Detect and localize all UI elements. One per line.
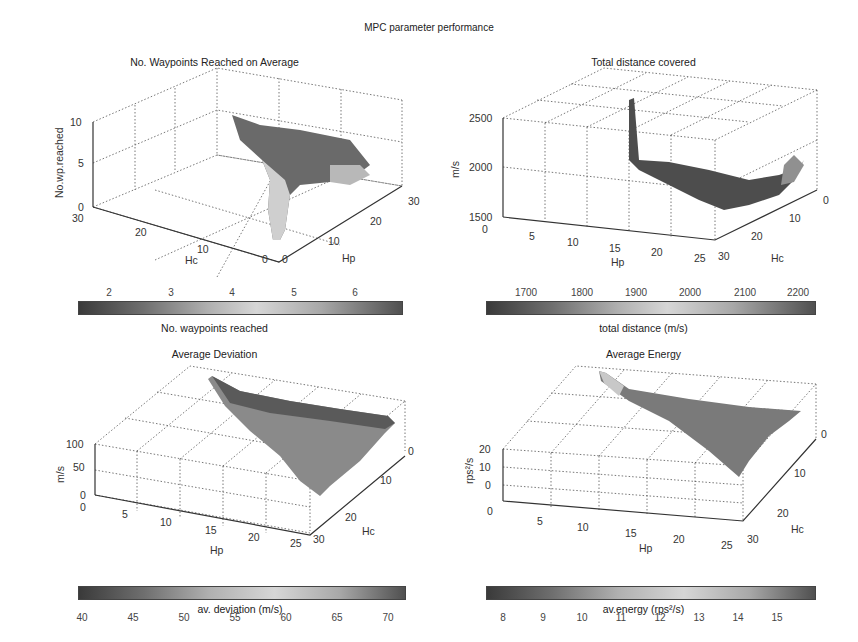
panel-distance: Total distance covered 2500 2000 1500 0 … [429, 0, 858, 321]
svg-text:10: 10 [567, 236, 579, 248]
colorbar-ticks: 1700 1800 1900 2000 2100 2200 [486, 287, 814, 299]
svg-text:Hc: Hc [791, 523, 804, 535]
svg-text:0: 0 [408, 445, 414, 457]
svg-text:30: 30 [718, 250, 730, 262]
svg-text:2500: 2500 [469, 112, 493, 124]
colorbar-tick: 2 [106, 287, 112, 298]
colorbar-tick: 1900 [625, 287, 647, 298]
svg-text:20: 20 [370, 215, 382, 227]
svg-text:20: 20 [248, 531, 260, 543]
colorbar-tick: 2100 [734, 287, 756, 298]
svg-text:m/s: m/s [449, 161, 461, 178]
colorbar [78, 301, 403, 315]
colorbar-tick: 3 [168, 287, 174, 298]
svg-text:rps²/s: rps²/s [463, 458, 475, 484]
svg-text:0: 0 [487, 505, 493, 517]
svg-text:30: 30 [313, 533, 325, 545]
svg-text:Hc: Hc [362, 525, 375, 537]
svg-text:Hc: Hc [771, 252, 784, 264]
svg-text:10: 10 [160, 516, 172, 528]
svg-text:10: 10 [577, 521, 589, 533]
panel-waypoints: No. Waypoints Reached on Average 10 5 0 … [0, 0, 429, 321]
svg-text:0: 0 [80, 489, 86, 501]
svg-text:10: 10 [328, 235, 340, 247]
svg-text:0: 0 [282, 253, 288, 265]
svg-text:20: 20 [777, 507, 789, 519]
colorbar-tick: 6 [352, 287, 358, 298]
svg-text:10: 10 [380, 474, 392, 486]
svg-text:5: 5 [537, 515, 543, 527]
svg-text:Hp: Hp [210, 544, 224, 556]
svg-text:15: 15 [609, 242, 621, 254]
panel-deviation: Average Deviation 100 50 0 0 5 10 15 20 … [0, 321, 429, 642]
panel-energy: Average Energy 20 10 0 0 5 10 15 20 25 3… [429, 321, 858, 642]
svg-text:10: 10 [794, 467, 806, 479]
svg-text:15: 15 [625, 527, 637, 539]
svg-text:20: 20 [651, 246, 663, 258]
svg-text:20: 20 [135, 226, 147, 238]
colorbar [78, 586, 406, 600]
colorbar-label: av. deviation (m/s) [0, 603, 480, 615]
colorbar-tick: 4 [229, 287, 235, 298]
svg-text:0: 0 [823, 194, 829, 206]
svg-text:0: 0 [821, 428, 827, 440]
colorbar-tick: 2200 [787, 287, 809, 298]
colorbar [486, 301, 816, 315]
svg-text:20: 20 [751, 230, 763, 242]
svg-text:10: 10 [197, 243, 209, 255]
svg-text:10: 10 [70, 116, 82, 128]
svg-text:Hp: Hp [342, 252, 356, 264]
svg-text:20: 20 [479, 443, 491, 455]
svg-text:25: 25 [721, 539, 733, 551]
svg-text:0: 0 [482, 223, 488, 235]
svg-text:10: 10 [479, 461, 491, 473]
svg-text:25: 25 [290, 537, 302, 549]
svg-text:0: 0 [80, 501, 86, 513]
svg-text:Hp: Hp [611, 256, 625, 268]
svg-text:20: 20 [673, 533, 685, 545]
svg-text:Hp: Hp [639, 542, 653, 554]
plot-3d-distance: 2500 2000 1500 0 5 10 15 20 25 30 20 10 … [429, 0, 858, 321]
svg-text:5: 5 [122, 508, 128, 520]
svg-text:10: 10 [789, 212, 801, 224]
svg-text:0: 0 [485, 479, 491, 491]
svg-text:Hc: Hc [185, 254, 198, 266]
svg-text:30: 30 [408, 195, 420, 207]
svg-text:100: 100 [66, 438, 84, 450]
svg-text:No.wp.reached: No.wp.reached [53, 127, 65, 198]
colorbar-tick: 2000 [679, 287, 701, 298]
svg-text:1500: 1500 [469, 211, 493, 223]
colorbar-ticks: 2 3 4 5 6 [78, 287, 401, 299]
svg-text:m/s: m/s [54, 466, 66, 483]
colorbar-tick: 1800 [571, 287, 593, 298]
svg-text:30: 30 [72, 212, 84, 224]
svg-text:5: 5 [78, 157, 84, 169]
colorbar [486, 586, 816, 600]
colorbar-tick: 5 [291, 287, 297, 298]
svg-text:50: 50 [73, 461, 85, 473]
plot-3d-waypoints: 10 5 0 30 20 10 0 0 10 20 30 Hc Hp No.wp… [0, 0, 429, 321]
svg-text:15: 15 [205, 524, 217, 536]
svg-text:25: 25 [694, 252, 706, 264]
svg-text:2000: 2000 [469, 161, 493, 173]
colorbar-tick: 1700 [515, 287, 537, 298]
colorbar-label: av.energy (rps²/s) [429, 603, 858, 615]
svg-text:20: 20 [345, 511, 357, 523]
svg-text:0: 0 [262, 253, 268, 265]
svg-text:30: 30 [747, 533, 759, 545]
svg-text:5: 5 [529, 230, 535, 242]
